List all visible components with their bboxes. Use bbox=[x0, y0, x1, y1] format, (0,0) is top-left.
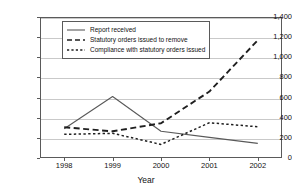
legend-item-report-received: Report received bbox=[66, 25, 205, 35]
series-line bbox=[64, 97, 258, 144]
legend-swatch-short-dash-icon bbox=[66, 46, 86, 54]
line-chart: 02004006008001,0001,2001,400 19981999200… bbox=[0, 0, 292, 195]
legend-label-report-received: Report received bbox=[90, 26, 136, 34]
legend-item-statutory-orders: Statutory orders issued to remove bbox=[66, 35, 205, 45]
legend-label-compliance: Compliance with statutory orders issued bbox=[90, 46, 205, 54]
legend-label-statutory-orders: Statutory orders issued to remove bbox=[90, 36, 188, 44]
legend-swatch-long-dash-icon bbox=[66, 36, 86, 44]
series-line bbox=[64, 123, 258, 145]
x-axis-title: Year bbox=[0, 175, 292, 185]
legend-item-compliance: Compliance with statutory orders issued bbox=[66, 45, 205, 55]
chart-legend: Report received Statutory orders issued … bbox=[62, 21, 210, 59]
legend-swatch-solid-icon bbox=[66, 26, 86, 34]
